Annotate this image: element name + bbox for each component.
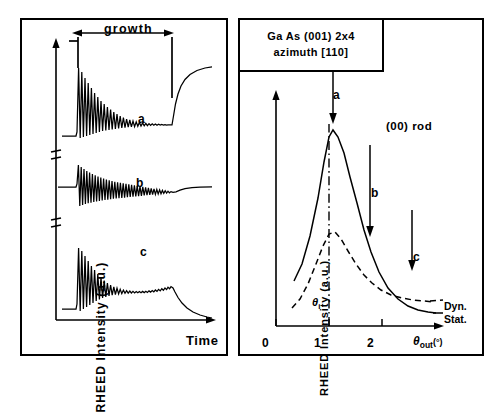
caption-line-1: Ga As (001) 2x4 [267,29,355,45]
curve-a [62,67,212,138]
sample-caption-box: Ga As (001) 2x4 azimuth [110] [238,18,384,72]
curve-label-b: b [136,176,143,190]
theta-subscript: i [318,302,320,311]
left-panel-plot [22,20,226,354]
left-panel-time-series [20,18,228,356]
theta-out-unit: (°) [433,337,443,347]
legend-leader-lines [430,300,443,313]
right-x-axis-label: θout(°) [413,334,443,350]
curve-label-c: c [140,245,147,259]
legend-label-stat: Stat. [444,313,467,325]
left-y-axis-arrowhead [52,38,59,48]
rod-annotation: (00) rod [386,120,432,132]
caption-line-2: azimuth [110] [274,45,349,61]
theta-out-subscript: out [420,340,433,350]
right-x-axis-arrowhead [434,322,444,329]
curve-label-a: a [138,112,145,126]
curve-c [62,248,212,318]
x-tick-label-0: 0 [262,336,269,350]
left-y-axis-label: RHEED Intensity (a.u.) [94,262,108,412]
series-stat-curve [294,130,436,313]
right-y-axis-arrowhead [272,90,279,100]
legend-label-dyn: Dyn. [444,300,467,312]
x-tick-label-2: 2 [367,336,374,350]
x-tick-label-1: 1 [314,336,321,350]
theta-out-symbol: θ [413,334,420,348]
arrow-label-b: b [371,186,378,200]
arrow-label-a: a [333,88,340,102]
growth-span-label: growth [104,22,153,36]
left-x-axis-label: Time [186,333,219,348]
curve-b [58,165,212,206]
theta-incidence-label: θi [312,296,320,311]
right-y-axis-label: RHEED Intensity (a.u.) [318,260,330,396]
arrow-label-c: c [413,250,420,264]
